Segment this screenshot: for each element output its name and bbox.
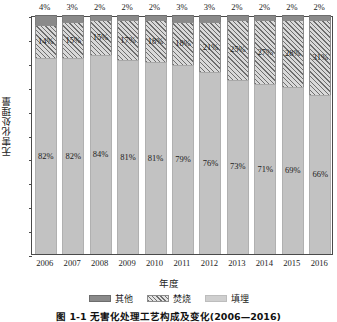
segment-other <box>282 15 304 20</box>
x-tick-label-2014: 2014 <box>251 258 278 268</box>
bar-2009 <box>117 17 139 254</box>
value-label-incineration: 28% <box>279 49 306 58</box>
value-label-other: 2% <box>251 3 278 12</box>
bar-2011 <box>172 17 194 254</box>
y-axis-tick <box>29 208 32 209</box>
value-label-landfill: 73% <box>224 162 251 171</box>
value-label-landfill: 82% <box>59 152 86 161</box>
value-label-other: 3% <box>196 3 223 12</box>
x-axis-title: 年度 <box>0 276 337 290</box>
y-axis-tick <box>29 160 32 161</box>
value-label-other: 2% <box>86 3 113 12</box>
y-axis-tick <box>29 65 32 66</box>
y-axis-tick <box>29 137 32 138</box>
segment-other <box>117 15 139 20</box>
value-label-other: 2% <box>306 3 333 12</box>
segment-other <box>62 15 84 22</box>
x-tick-label-2009: 2009 <box>113 258 140 268</box>
value-label-other: 3% <box>58 3 85 12</box>
segment-other <box>309 15 331 20</box>
value-label-other: 2% <box>278 3 305 12</box>
bar-2010 <box>145 17 167 254</box>
legend-swatch-landfill-icon <box>205 295 227 302</box>
segment-other <box>172 15 194 22</box>
figure-caption: 图 1-1 无害化处理工艺构成及变化(2006—2016) <box>0 311 337 322</box>
value-label-incineration: 27% <box>252 48 279 57</box>
x-tick-label-2012: 2012 <box>196 258 223 268</box>
value-label-other: 3% <box>168 3 195 12</box>
y-axis-tick <box>29 89 32 90</box>
value-label-landfill: 84% <box>87 150 114 159</box>
x-tick-label-2011: 2011 <box>168 258 195 268</box>
legend-item-other: 其他 <box>89 292 133 305</box>
y-axis-tick <box>29 256 32 257</box>
value-label-landfill: 69% <box>279 166 306 175</box>
x-tick-label-2008: 2008 <box>86 258 113 268</box>
legend-label-landfill: 填埋 <box>231 292 249 305</box>
x-tick-label-2006: 2006 <box>31 258 58 268</box>
x-tick-label-2013: 2013 <box>223 258 250 268</box>
legend-item-incineration: 焚烧 <box>147 292 191 305</box>
value-label-incineration: 14% <box>32 37 59 46</box>
y-axis-tick <box>29 184 32 185</box>
value-label-incineration: 15% <box>87 33 114 42</box>
value-label-landfill: 76% <box>197 159 224 168</box>
value-label-incineration: 21% <box>197 43 224 52</box>
legend-label-other: 其他 <box>115 292 133 305</box>
x-tick-label-2007: 2007 <box>58 258 85 268</box>
x-tick-label-2015: 2015 <box>278 258 305 268</box>
chart-legend: 其他 焚烧 填埋 <box>0 292 337 305</box>
bar-2007 <box>62 17 84 254</box>
segment-other <box>145 15 167 20</box>
value-label-other: 2% <box>141 3 168 12</box>
value-label-incineration: 15% <box>59 36 86 45</box>
bar-2008 <box>90 17 112 254</box>
segment-other <box>35 15 57 25</box>
value-label-landfill: 66% <box>307 170 334 179</box>
y-axis-tick <box>29 232 32 233</box>
value-label-incineration: 31% <box>307 53 334 62</box>
value-label-other: 2% <box>223 3 250 12</box>
value-label-landfill: 71% <box>252 165 279 174</box>
value-label-incineration: 18% <box>142 37 169 46</box>
y-axis-title: 无害化处理量 <box>2 96 16 156</box>
value-label-landfill: 81% <box>142 154 169 163</box>
value-label-landfill: 81% <box>114 153 141 162</box>
legend-swatch-other-icon <box>89 295 111 302</box>
value-label-incineration: 17% <box>114 36 141 45</box>
value-label-other: 4% <box>31 3 58 12</box>
y-axis-tick <box>29 17 32 18</box>
value-label-other: 2% <box>113 3 140 12</box>
value-label-landfill: 79% <box>169 155 196 164</box>
segment-other <box>199 15 221 22</box>
plot-area: 82%14%82%15%84%15%81%17%81%18%79%18%76%2… <box>31 16 333 255</box>
value-label-incineration: 25% <box>224 45 251 54</box>
bar-2012 <box>199 17 221 254</box>
segment-other <box>90 15 112 20</box>
legend-item-landfill: 填埋 <box>205 292 249 305</box>
x-tick-label-2016: 2016 <box>306 258 333 268</box>
legend-swatch-incineration-icon <box>147 295 169 302</box>
segment-other <box>227 15 249 20</box>
legend-label-incineration: 焚烧 <box>173 292 191 305</box>
x-tick-label-2010: 2010 <box>141 258 168 268</box>
value-label-landfill: 82% <box>32 152 59 161</box>
segment-other <box>254 15 276 20</box>
plot-inner: 82%14%82%15%84%15%81%17%81%18%79%18%76%2… <box>32 17 332 254</box>
y-axis-tick <box>29 113 32 114</box>
value-label-incineration: 18% <box>169 39 196 48</box>
bar-2006 <box>35 17 57 254</box>
